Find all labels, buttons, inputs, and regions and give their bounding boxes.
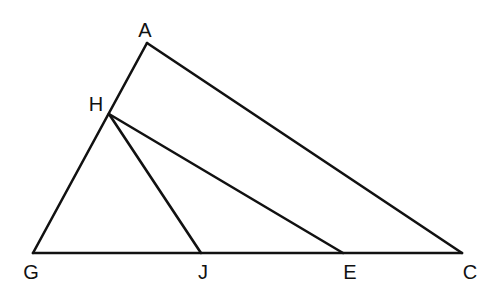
label-e: E xyxy=(343,261,356,283)
segments xyxy=(33,43,462,253)
triangle-diagram: A H G J E C xyxy=(0,0,496,303)
label-h: H xyxy=(89,93,103,115)
segment-he xyxy=(109,114,343,253)
segment-ga xyxy=(33,43,147,253)
label-a: A xyxy=(138,19,152,41)
segment-hj xyxy=(109,114,201,253)
segment-ac xyxy=(147,43,462,253)
label-j: J xyxy=(198,261,208,283)
label-c: C xyxy=(463,261,477,283)
point-labels: A H G J E C xyxy=(23,19,477,283)
label-g: G xyxy=(23,261,39,283)
